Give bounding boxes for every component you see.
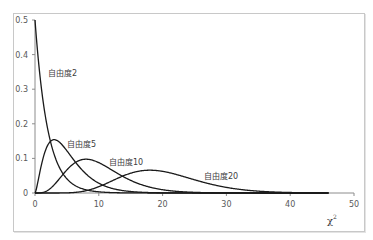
x-tick-label: 0 bbox=[32, 200, 37, 209]
plot: 0 0.1 0.2 0.3 0.4 0.5 0 10 20 30 40 50 自… bbox=[0, 0, 373, 240]
series-label-df20: 自由度20 bbox=[204, 171, 238, 181]
series-label-df5: 自由度5 bbox=[67, 139, 96, 149]
x-tick-label: 10 bbox=[94, 200, 104, 209]
x-tick-label: 30 bbox=[221, 200, 231, 209]
x-axis-title: χ2 bbox=[327, 213, 337, 226]
y-tick-label: 0.5 bbox=[15, 16, 28, 25]
x-tick-label: 40 bbox=[285, 200, 295, 209]
x-tick-label: 50 bbox=[349, 200, 359, 209]
series-label-df2: 自由度2 bbox=[48, 68, 77, 78]
y-tick-label: 0 bbox=[23, 189, 28, 198]
y-tick-label: 0.3 bbox=[15, 85, 28, 94]
y-tick-label: 0.1 bbox=[15, 154, 28, 163]
y-tick-label: 0.4 bbox=[15, 51, 28, 60]
x-tick-label: 20 bbox=[158, 200, 168, 209]
y-tick-label: 0.2 bbox=[15, 120, 28, 129]
curve-df20 bbox=[35, 170, 328, 193]
series-label-df10: 自由度10 bbox=[109, 157, 143, 167]
